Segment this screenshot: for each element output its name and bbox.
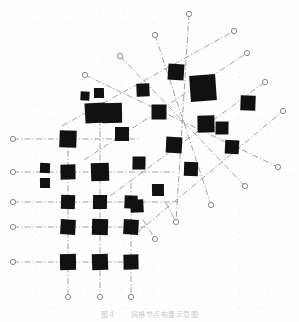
terminal-circles-layer: [10, 11, 285, 299]
grid-node: [166, 137, 183, 154]
terminal-circle: [117, 53, 122, 58]
grid-node: [59, 130, 77, 148]
grid-node: [60, 219, 76, 235]
grid-node: [123, 219, 139, 235]
grid-node: [189, 74, 217, 102]
grid-nodes-layer: [40, 63, 256, 270]
figure-caption: 图４ 网格节点布置示意图: [0, 310, 299, 320]
connector-lines-layer: [13, 14, 283, 297]
grid-node: [136, 83, 149, 96]
terminal-circle: [65, 294, 70, 299]
grid-node: [197, 115, 214, 132]
terminal-circle: [10, 224, 15, 229]
grid-schematic-svg: [0, 0, 299, 322]
terminal-circle: [82, 72, 87, 77]
grid-node: [102, 103, 122, 123]
grid-node: [61, 195, 75, 209]
terminal-circle: [152, 32, 157, 37]
terminal-circle: [10, 136, 15, 141]
grid-node: [167, 63, 184, 80]
grid-node: [94, 88, 104, 98]
grid-node: [92, 254, 109, 271]
terminal-circle: [97, 294, 102, 299]
diag-stub-1: [166, 203, 176, 222]
grid-node: [184, 162, 198, 176]
grid-node: [92, 219, 109, 236]
grid-node: [60, 254, 76, 270]
grid-node: [132, 156, 145, 169]
grid-node: [80, 91, 89, 100]
grid-node: [93, 195, 107, 209]
terminal-circle: [242, 183, 247, 188]
grid-node: [152, 184, 164, 196]
grid-node: [123, 254, 138, 269]
terminal-circle: [262, 79, 267, 84]
terminal-circle: [280, 108, 285, 113]
terminal-circle: [186, 11, 191, 16]
terminal-circle: [152, 236, 157, 241]
grid-node: [240, 95, 256, 111]
terminal-circle: [231, 28, 236, 33]
grid-node: [40, 163, 50, 173]
grid-node: [130, 199, 144, 213]
terminal-circle: [10, 259, 15, 264]
terminal-circle: [208, 202, 213, 207]
grid-node: [225, 140, 240, 155]
diag-line-a-3: [176, 14, 189, 222]
grid-node: [215, 121, 228, 134]
grid-node: [91, 163, 110, 182]
grid-node: [115, 127, 129, 141]
terminal-circle: [173, 219, 178, 224]
terminal-circle: [244, 50, 249, 55]
terminal-circle: [10, 169, 15, 174]
terminal-circle: [128, 294, 133, 299]
terminal-circle: [275, 164, 280, 169]
grid-node: [152, 105, 167, 120]
grid-node: [60, 164, 75, 179]
terminal-circle: [10, 199, 15, 204]
grid-node: [40, 178, 50, 188]
figure-container: 图４ 网格节点布置示意图: [0, 0, 299, 322]
